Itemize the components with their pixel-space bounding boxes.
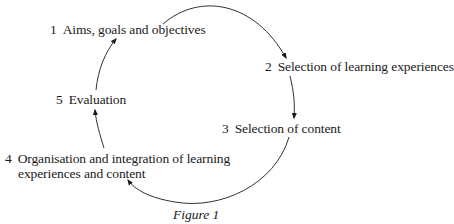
- step-number: 5: [56, 92, 63, 107]
- step-2-selection-learning: 2Selection of learning experiences: [265, 59, 454, 74]
- step-5-evaluation: 5Evaluation: [56, 92, 126, 107]
- step-label: Evaluation: [69, 92, 126, 107]
- step-label: Aims, goals and objectives: [63, 22, 206, 37]
- step-number: 1: [50, 22, 57, 37]
- step-label: Selection of content: [235, 121, 341, 136]
- step-number: 3: [222, 121, 229, 136]
- step-label: Selection of learning experiences: [278, 59, 454, 74]
- arrow-5-to-1: [96, 39, 116, 90]
- step-number: 2: [265, 59, 272, 74]
- step-1-aims: 1Aims, goals and objectives: [50, 22, 206, 37]
- step-number: 4: [5, 151, 12, 166]
- arrow-2-to-3: [290, 76, 294, 118]
- arrow-4-to-5: [95, 110, 104, 148]
- step-4-organisation: 4Organisation and integration of learnin…: [5, 151, 230, 181]
- step-label-line1: Organisation and integration of learning: [18, 151, 230, 166]
- step-3-selection-content: 3Selection of content: [222, 121, 341, 136]
- figure-caption: Figure 1: [173, 207, 219, 223]
- step-label-line2: experiences and content: [18, 166, 145, 181]
